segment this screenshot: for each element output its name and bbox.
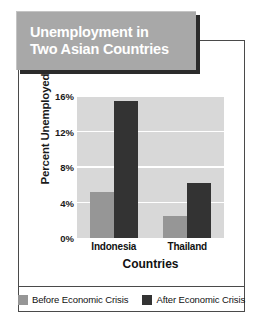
chart-figure: Unemployment in Two Asian Countries Perc…	[0, 0, 269, 326]
y-axis-tick-label: 0%	[34, 233, 74, 244]
y-axis-tick-label: 12%	[34, 126, 74, 137]
y-axis-tick-label: 8%	[34, 162, 74, 173]
chart-canvas: Percent Unemployed 0%4%8%12%16% Countrie…	[0, 0, 269, 326]
chart-legend: Before Economic CrisisAfter Economic Cri…	[19, 288, 244, 311]
legend-swatch-icon	[142, 295, 152, 305]
y-axis-tick-label: 16%	[34, 91, 74, 102]
bar-thailand-before	[163, 216, 187, 238]
x-axis-category-label: Thailand	[147, 241, 227, 252]
bar-indonesia-after	[114, 101, 138, 238]
legend-divider	[19, 286, 244, 287]
gridline	[77, 95, 224, 97]
gridline	[77, 131, 224, 133]
y-axis-ticks: 0%4%8%12%16%	[32, 96, 74, 238]
legend-label: Before Economic Crisis	[32, 294, 129, 305]
gridline	[77, 166, 224, 168]
bar-thailand-after	[187, 183, 211, 238]
x-axis-category-label: Indonesia	[74, 241, 154, 252]
legend-label: After Economic Crisis	[156, 294, 245, 305]
plot-area	[77, 96, 224, 238]
legend-item-before: Before Economic Crisis	[18, 294, 129, 305]
x-axis-label: Countries	[77, 257, 224, 271]
y-axis-tick-label: 4%	[34, 197, 74, 208]
legend-item-after: After Economic Crisis	[142, 294, 245, 305]
bar-indonesia-before	[90, 192, 114, 238]
legend-swatch-icon	[18, 295, 28, 305]
